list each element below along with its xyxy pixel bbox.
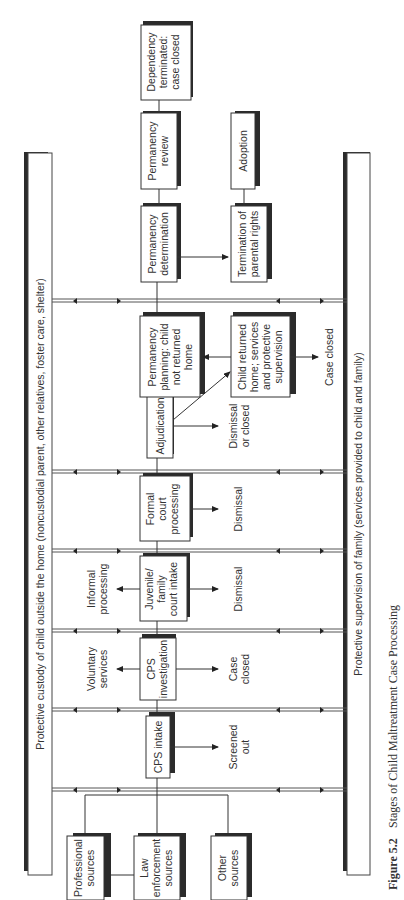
svg-text:CPS intake: CPS intake	[152, 721, 164, 774]
svg-text:Screenedout: Screenedout	[227, 724, 251, 769]
svg-text:Adjudication: Adjudication	[154, 397, 166, 454]
divider-2	[52, 707, 347, 713]
stage-cps-intake: CPS intake Screenedout	[146, 712, 251, 778]
custody-band: Protective custody of child outside the …	[24, 152, 52, 875]
divider-3	[52, 628, 347, 634]
source-other: Othersources	[211, 833, 252, 900]
divider-5	[52, 469, 347, 475]
svg-text:Dismissal: Dismissal	[232, 487, 244, 532]
stage-formal-court-processing: Formalcourtprocessing Dismissal	[140, 473, 244, 541]
svg-text:Case closed: Case closed	[323, 328, 335, 386]
stage-adoption: Adoption	[231, 111, 260, 206]
svg-text:Caseclosed: Caseclosed	[227, 654, 251, 685]
svg-text:Dismissal: Dismissal	[232, 567, 244, 612]
svg-text:Voluntaryservices: Voluntaryservices	[85, 646, 109, 691]
stage-child-returned-home: Child returnedhome; servicesand protecti…	[203, 312, 335, 397]
stage-permanency-determination: Permanencydetermination	[141, 203, 228, 282]
stage-juvenile-court-intake: Juvenile/familycourt intake Informalproc…	[85, 553, 244, 621]
svg-text:Dependencyterminated:case clos: Dependencyterminated:case closed	[145, 32, 181, 92]
divider-6	[52, 298, 347, 304]
caption-title: Stages of Child Maltreatment Case Proces…	[386, 605, 400, 828]
stage-permanency-planning: Permanencyplanning: childnot returnedhom…	[140, 312, 205, 397]
custody-band-label: Protective custody of child outside the …	[34, 278, 46, 750]
caption-number: Figure 5.2	[386, 838, 400, 890]
stage-termination-parental-rights: Termination ofparental rights	[231, 203, 272, 282]
svg-text:Dismissalor closed: Dismissalor closed	[227, 404, 251, 449]
source-professional: Professionalsources	[67, 833, 111, 900]
source-law-enforcement: Lawenforcementsources	[134, 833, 186, 900]
svg-text:Othersources: Othersources	[216, 850, 240, 887]
supervision-band: Protective supervision of family (servic…	[343, 152, 370, 875]
figure-caption: Figure 5.2 Stages of Child Maltreatment …	[386, 605, 400, 890]
stage-cps-investigation: CPSinvestigation Voluntaryservices Casec…	[85, 634, 251, 700]
svg-text:Termination ofparental rights: Termination ofparental rights	[236, 211, 260, 278]
supervision-band-label: Protective supervision of family (servic…	[352, 352, 364, 675]
svg-text:Child returnedhome; servicesan: Child returnedhome; servicesand protecti…	[236, 322, 284, 393]
svg-text:Permanencydetermination: Permanencydetermination	[146, 212, 170, 276]
stage-dependency-terminated: Dependencyterminated:case closed	[141, 21, 193, 113]
rotated-figure: Protective custody of child outside the …	[0, 0, 404, 900]
svg-text:Informalprocessing: Informalprocessing	[85, 563, 109, 614]
stage-permanency-review: Permanencyreview	[141, 111, 181, 206]
divider-1	[52, 787, 347, 793]
svg-text:Adoption: Adoption	[237, 130, 249, 172]
divider-4	[52, 548, 347, 554]
